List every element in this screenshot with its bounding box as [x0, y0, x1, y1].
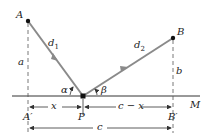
label-c-dim: c: [97, 122, 103, 132]
label-x-dim: x: [51, 101, 57, 111]
angle-beta-arc: [95, 89, 97, 95]
label-m-line: M: [190, 100, 200, 110]
label-d2-sub: 2: [140, 45, 144, 53]
label-d2: d2: [134, 40, 145, 53]
label-alpha: α: [61, 85, 68, 95]
arrow-d2-icon: [120, 66, 128, 72]
reflection-diagram: A B d1 d2 a b α β M x c − x A′ P B′ c: [0, 0, 213, 138]
label-a-length: a: [18, 57, 24, 67]
label-beta: β: [101, 85, 107, 95]
label-d1-sub: 1: [54, 43, 58, 51]
point-p: [81, 94, 86, 99]
label-a-point: A: [16, 10, 23, 20]
label-a-prime: A′: [23, 112, 33, 122]
label-p-point: P: [78, 112, 85, 122]
point-b: [171, 36, 175, 40]
label-b-length: b: [176, 66, 182, 76]
label-b-point: B: [177, 27, 184, 37]
label-b-prime: B′: [168, 112, 178, 122]
angle-alpha-arc: [70, 87, 73, 95]
point-a: [26, 19, 30, 23]
label-d1: d1: [48, 38, 59, 51]
label-c-minus-x-dim: c − x: [118, 101, 144, 111]
